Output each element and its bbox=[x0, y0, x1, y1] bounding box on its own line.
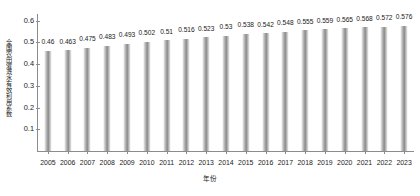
bar-slot: 0.53 bbox=[216, 14, 236, 151]
bar[interactable] bbox=[203, 37, 210, 151]
bar[interactable] bbox=[222, 36, 229, 151]
y-tick-label: 0.4 bbox=[24, 60, 34, 67]
x-tick-label: 2021 bbox=[357, 160, 372, 167]
x-tick-label: 2009 bbox=[119, 160, 134, 167]
bar-slot: 0.51 bbox=[157, 14, 177, 151]
bar-value-label: 0.516 bbox=[178, 27, 195, 34]
y-tick-label: 0.3 bbox=[24, 82, 34, 89]
bar-slot: 0.576 bbox=[394, 14, 414, 151]
bar-value-label: 0.565 bbox=[336, 17, 353, 24]
x-tick-label: 2023 bbox=[396, 160, 411, 167]
bar-slot: 0.572 bbox=[374, 14, 394, 151]
x-tick-label: 2014 bbox=[218, 160, 233, 167]
x-tick-label: 2019 bbox=[317, 160, 332, 167]
x-tick-mark bbox=[266, 151, 267, 154]
bar-slot: 0.542 bbox=[256, 14, 276, 151]
y-tick-label: 0.1 bbox=[24, 126, 34, 133]
bar-slot: 0.555 bbox=[295, 14, 315, 151]
bar[interactable] bbox=[262, 33, 269, 151]
bar-slot: 0.538 bbox=[236, 14, 256, 151]
x-tick-mark bbox=[365, 151, 366, 154]
plot-area: 0.10.20.30.40.50.6 0.460.4630.4750.4830.… bbox=[37, 14, 414, 151]
y-tick-label: 0.5 bbox=[24, 39, 34, 46]
x-tick-mark bbox=[68, 151, 69, 154]
x-tick-mark bbox=[305, 151, 306, 154]
x-tick-label: 2006 bbox=[60, 160, 75, 167]
bar-value-label: 0.576 bbox=[396, 14, 413, 21]
bar-value-label: 0.475 bbox=[79, 36, 96, 43]
bars-layer: 0.460.4630.4750.4830.4930.5020.510.5160.… bbox=[38, 14, 414, 151]
bar-slot: 0.475 bbox=[78, 14, 98, 151]
bar[interactable] bbox=[44, 51, 51, 151]
bar-value-label: 0.46 bbox=[41, 39, 54, 46]
bar-value-label: 0.53 bbox=[220, 24, 233, 31]
bar[interactable] bbox=[282, 32, 289, 151]
x-tick-label: 2007 bbox=[80, 160, 95, 167]
bar[interactable] bbox=[64, 50, 71, 151]
x-tick-mark bbox=[285, 151, 286, 154]
x-tick-label: 2011 bbox=[159, 160, 174, 167]
y-axis-title: 全国农田灌溉水有效利用系数 bbox=[1, 0, 15, 155]
bar-slot: 0.502 bbox=[137, 14, 157, 151]
x-axis-title: 年份 bbox=[0, 176, 420, 183]
bar-slot: 0.565 bbox=[335, 14, 355, 151]
bar-value-label: 0.463 bbox=[59, 39, 76, 46]
x-tick-label: 2013 bbox=[199, 160, 214, 167]
bar-chart: 全国农田灌溉水有效利用系数 0.10.20.30.40.50.6 0.460.4… bbox=[0, 0, 420, 196]
x-tick-label: 2008 bbox=[100, 160, 115, 167]
bar-value-label: 0.542 bbox=[257, 22, 274, 29]
x-tick-label: 2018 bbox=[297, 160, 312, 167]
bar-value-label: 0.502 bbox=[139, 30, 156, 37]
x-tick-mark bbox=[107, 151, 108, 154]
bar-value-label: 0.568 bbox=[356, 16, 373, 23]
bar-value-label: 0.538 bbox=[238, 22, 255, 29]
x-tick-mark bbox=[167, 151, 168, 154]
bar[interactable] bbox=[321, 29, 328, 151]
bar[interactable] bbox=[124, 44, 131, 151]
bar-value-label: 0.572 bbox=[376, 15, 393, 22]
bar-value-label: 0.559 bbox=[317, 18, 334, 25]
x-tick-mark bbox=[325, 151, 326, 154]
bar[interactable] bbox=[341, 28, 348, 151]
bar[interactable] bbox=[381, 27, 388, 151]
x-tick-mark bbox=[384, 151, 385, 154]
x-tick-label: 2012 bbox=[179, 160, 194, 167]
x-tick-label: 2005 bbox=[40, 160, 55, 167]
bar-slot: 0.548 bbox=[275, 14, 295, 151]
x-tick-mark bbox=[87, 151, 88, 154]
x-tick-label: 2015 bbox=[238, 160, 253, 167]
bar-value-label: 0.483 bbox=[99, 34, 116, 41]
bar-value-label: 0.548 bbox=[277, 20, 294, 27]
bar-slot: 0.568 bbox=[355, 14, 375, 151]
y-tick-label: 0.2 bbox=[24, 104, 34, 111]
bar-slot: 0.559 bbox=[315, 14, 335, 151]
x-tick-mark bbox=[186, 151, 187, 154]
bar-slot: 0.493 bbox=[117, 14, 137, 151]
bar-value-label: 0.523 bbox=[198, 26, 215, 33]
x-tick-mark bbox=[147, 151, 148, 154]
y-tick-label: 0.6 bbox=[24, 17, 34, 24]
bar-slot: 0.516 bbox=[177, 14, 197, 151]
bar[interactable] bbox=[361, 27, 368, 151]
bar[interactable] bbox=[401, 26, 408, 151]
x-tick-mark bbox=[226, 151, 227, 154]
bar-slot: 0.463 bbox=[58, 14, 78, 151]
bar[interactable] bbox=[302, 30, 309, 151]
x-tick-label: 2022 bbox=[377, 160, 392, 167]
x-tick-mark bbox=[345, 151, 346, 154]
bar[interactable] bbox=[242, 34, 249, 151]
bar-slot: 0.46 bbox=[38, 14, 58, 151]
bar[interactable] bbox=[84, 48, 91, 151]
x-tick-mark bbox=[246, 151, 247, 154]
bar[interactable] bbox=[143, 42, 150, 151]
x-tick-mark bbox=[404, 151, 405, 154]
x-tick-label: 2010 bbox=[139, 160, 154, 167]
bar-value-label: 0.493 bbox=[119, 32, 136, 39]
bar[interactable] bbox=[163, 40, 170, 151]
bar-value-label: 0.51 bbox=[160, 29, 173, 36]
x-tick-mark bbox=[206, 151, 207, 154]
bar[interactable] bbox=[183, 39, 190, 151]
bar[interactable] bbox=[104, 46, 111, 151]
x-tick-mark bbox=[127, 151, 128, 154]
bar-slot: 0.483 bbox=[97, 14, 117, 151]
